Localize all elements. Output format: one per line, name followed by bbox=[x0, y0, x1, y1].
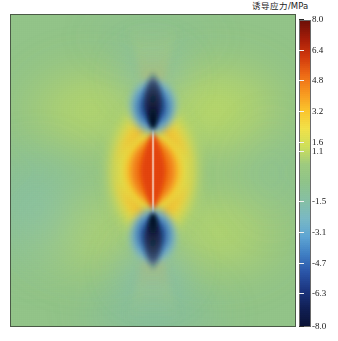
colorbar-tick-label: -3.1 bbox=[312, 227, 326, 237]
colorbar-tick-label: 3.2 bbox=[312, 106, 323, 116]
tip-peak-bottom bbox=[149, 213, 158, 235]
colorbar-tick-label: 4.8 bbox=[312, 75, 323, 85]
colorbar-tick-mark bbox=[299, 142, 304, 143]
colorbar-tick-label: 6.4 bbox=[312, 45, 323, 55]
colorbar-tick-mark bbox=[299, 293, 304, 294]
figure-root: 诱导应力/MPa bbox=[0, 0, 338, 341]
colorbar-tick-mark bbox=[299, 232, 304, 233]
colorbar-tick-label: 8.0 bbox=[312, 14, 323, 24]
stress-field-svg bbox=[11, 15, 295, 326]
tip-peak-top bbox=[149, 107, 158, 129]
contour-plot-area bbox=[10, 14, 296, 327]
colorbar-tick-label: 1.1 bbox=[312, 146, 323, 156]
stress-field-heatmap bbox=[11, 15, 295, 326]
colorbar-tick-label: 1.6 bbox=[312, 137, 323, 147]
colorbar-tick-mark bbox=[299, 50, 304, 51]
colorbar-tick-mark bbox=[299, 263, 304, 264]
colorbar-tick-mark bbox=[299, 80, 304, 81]
colorbar-tick-label: -8.0 bbox=[312, 321, 326, 331]
colorbar-title: 诱导应力/MPa bbox=[252, 1, 308, 12]
colorbar-tick-label: -1.5 bbox=[312, 196, 326, 206]
colorbar-tick-mark bbox=[299, 19, 304, 20]
colorbar-tick-mark bbox=[299, 111, 304, 112]
colorbar-tick-mark bbox=[299, 201, 304, 202]
colorbar-tick-mark bbox=[299, 151, 304, 152]
colorbar-tick-axis: 8.06.44.83.21.61.1-1.5-3.1-4.7-6.3-8.0 bbox=[299, 20, 338, 327]
colorbar-tick-label: -6.3 bbox=[312, 288, 326, 298]
colorbar-tick-mark bbox=[299, 326, 304, 327]
colorbar-tick-label: -4.7 bbox=[312, 258, 326, 268]
